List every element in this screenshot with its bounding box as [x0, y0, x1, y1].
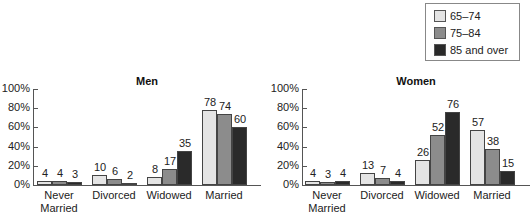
category-label-line: Married	[297, 202, 357, 215]
bar-value-label: 3	[65, 168, 85, 180]
legend-item-75-84: 75–84	[434, 26, 481, 40]
y-tick-label: 40%	[0, 140, 30, 152]
y-tick-mark	[33, 147, 38, 148]
bar	[320, 182, 335, 185]
y-tick-mark	[302, 147, 307, 148]
y-axis	[33, 89, 34, 185]
bar	[305, 181, 320, 185]
category-label-line: Married	[462, 189, 522, 202]
bar-value-label: 38	[483, 135, 503, 147]
bar	[162, 169, 177, 185]
legend-item-65-74: 65–74	[434, 9, 481, 23]
chart-title-men: Men	[127, 75, 167, 87]
legend-label: 85 and over	[450, 44, 508, 56]
y-tick-mark	[302, 89, 307, 90]
bar-value-label: 35	[175, 137, 195, 149]
y-tick-mark	[302, 185, 307, 186]
bar	[52, 181, 67, 185]
bar	[375, 178, 390, 185]
y-tick-mark	[33, 108, 38, 109]
legend-label: 75–84	[450, 27, 481, 39]
y-tick-mark	[33, 89, 38, 90]
y-tick-label: 80%	[269, 101, 299, 113]
bar-value-label: 15	[498, 157, 518, 169]
category-label-line: Never	[297, 189, 357, 202]
bar	[415, 160, 430, 185]
y-tick-label: 20%	[0, 159, 30, 171]
legend-label: 65–74	[450, 10, 481, 22]
bar	[390, 181, 405, 185]
category-label: Divorced	[84, 189, 144, 202]
y-tick-label: 80%	[0, 101, 30, 113]
category-label-line: Divorced	[84, 189, 144, 202]
x-axis	[33, 185, 261, 186]
category-label: Widowed	[407, 189, 467, 202]
category-label: Widowed	[139, 189, 199, 202]
bar	[232, 127, 247, 185]
y-tick-label: 100%	[0, 82, 30, 94]
bar	[445, 112, 460, 185]
bar	[500, 171, 515, 185]
bar	[430, 135, 445, 185]
legend-swatch	[434, 10, 446, 22]
bar-value-label: 57	[468, 116, 488, 128]
category-label-line: Widowed	[407, 189, 467, 202]
y-tick-label: 60%	[269, 120, 299, 132]
x-axis	[302, 185, 530, 186]
bar	[67, 182, 82, 185]
bar-value-label: 4	[333, 167, 353, 179]
bar	[335, 181, 350, 185]
legend-swatch	[434, 44, 446, 56]
category-label: Divorced	[352, 189, 412, 202]
category-label-line: Married	[29, 202, 89, 215]
bar-value-label: 76	[443, 98, 463, 110]
category-label-line: Never	[29, 189, 89, 202]
chart-title-women: Women	[396, 75, 436, 87]
y-tick-mark	[302, 108, 307, 109]
category-label: NeverMarried	[297, 189, 357, 215]
bar	[202, 110, 217, 185]
y-tick-label: 0%	[269, 178, 299, 190]
y-tick-mark	[33, 185, 38, 186]
bar	[147, 177, 162, 185]
bar-value-label: 4	[388, 167, 408, 179]
category-label-line: Widowed	[139, 189, 199, 202]
bar	[37, 181, 52, 185]
bar	[177, 151, 192, 185]
category-label-line: Married	[194, 189, 254, 202]
bar-value-label: 2	[120, 169, 140, 181]
category-label: Married	[194, 189, 254, 202]
y-tick-mark	[33, 127, 38, 128]
y-tick-label: 100%	[269, 82, 299, 94]
category-label: Married	[462, 189, 522, 202]
y-tick-label: 60%	[0, 120, 30, 132]
bar	[122, 183, 137, 185]
bar-value-label: 74	[215, 100, 235, 112]
legend-item-85-over: 85 and over	[434, 43, 508, 57]
category-label: NeverMarried	[29, 189, 89, 215]
bar-value-label: 60	[230, 113, 250, 125]
legend-swatch	[434, 27, 446, 39]
category-label-line: Divorced	[352, 189, 412, 202]
y-tick-label: 20%	[269, 159, 299, 171]
y-tick-label: 40%	[269, 140, 299, 152]
y-tick-mark	[302, 127, 307, 128]
y-tick-label: 0%	[0, 178, 30, 190]
legend: 65–74 75–84 85 and over	[425, 3, 520, 61]
